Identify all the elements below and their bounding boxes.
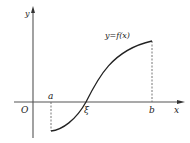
xi-label: ξ	[84, 105, 90, 115]
x-axis	[14, 100, 185, 104]
b-label: b	[149, 105, 155, 115]
a-label: a	[48, 91, 53, 101]
y-axis-arrow-icon	[31, 6, 35, 13]
curve-y-f-x	[51, 41, 152, 131]
origin-label: O	[21, 105, 29, 115]
x-axis-label: x	[174, 105, 179, 115]
function-graph: y x O a b ξ y=f(x)	[0, 0, 190, 143]
x-axis-arrow-icon	[177, 100, 185, 104]
y-axis-label: y	[24, 9, 30, 18]
y-axis	[31, 6, 35, 138]
curve-label: y=f(x)	[104, 31, 130, 40]
